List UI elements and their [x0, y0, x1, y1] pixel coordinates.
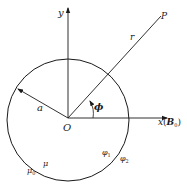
phi2-subscript: 2	[126, 158, 129, 164]
outer-potential-label: φ2	[120, 155, 129, 164]
outer-permeability-label: μ0	[27, 167, 35, 176]
radial-line-r	[68, 16, 161, 118]
radial-r-label: r	[130, 33, 134, 42]
inner-permeability-label: μ	[43, 160, 48, 168]
mu0-subscript: 0	[32, 170, 35, 176]
radius-a-label: a	[37, 103, 43, 113]
radius-a-arrow	[18, 89, 68, 118]
angle-phi-arc	[90, 101, 93, 118]
inner-potential-label: φ1	[102, 149, 111, 158]
phi1-subscript: 1	[108, 152, 111, 158]
angle-phi-label: ϕ	[94, 102, 103, 112]
point-p-label: P	[161, 12, 167, 21]
y-axis-label: y	[58, 8, 64, 18]
x-axis-label: x(B0)	[158, 118, 181, 128]
x-axis-paren-close: )	[177, 117, 181, 127]
origin-o-label: O	[63, 123, 71, 133]
